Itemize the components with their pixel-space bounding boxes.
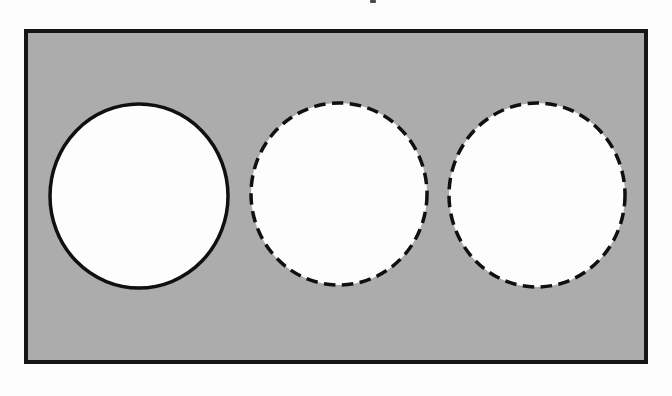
figure [0,0,672,396]
hole-solid-circle [50,104,228,288]
stray-ink-mark [370,0,376,3]
figure-canvas [0,0,672,396]
hole-dashed-circle-right [449,103,625,287]
hole-dashed-circle-middle [251,103,427,285]
